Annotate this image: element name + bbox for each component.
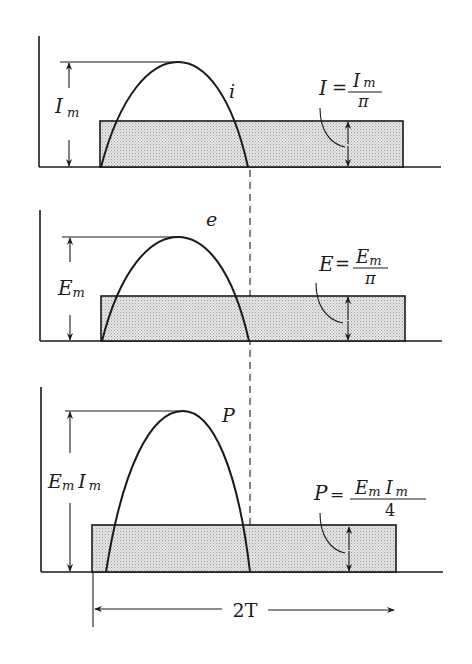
panel-voltage: Em e E = Em π <box>40 208 442 341</box>
curve-label: e <box>206 208 217 230</box>
formula-numerator: Em <box>355 246 381 268</box>
average-value-rect <box>101 296 405 341</box>
peak-label: Em <box>57 276 85 300</box>
formula-eq: = <box>335 253 350 274</box>
formula-numerator: EmIm <box>354 477 408 499</box>
curve-label: i <box>229 80 235 102</box>
formula-denominator: π <box>357 92 369 111</box>
formula-lhs: P <box>313 481 328 505</box>
period-dimension: 2T <box>93 572 394 627</box>
formula-lhs: I <box>318 76 328 100</box>
formula-eq: = <box>330 484 344 504</box>
formula-denominator: 4 <box>385 501 395 520</box>
panel-power: EmIm P P = EmIm 4 <box>41 387 443 572</box>
formula-denominator: π <box>364 269 376 288</box>
panel-current: Im i I = Im π <box>39 36 441 167</box>
formula-eq: = <box>332 77 347 98</box>
rectified-waveforms-diagram: Im i I = Im π Em e E = Em π <box>0 0 472 664</box>
peak-label: EmIm <box>47 470 101 493</box>
period-label: 2T <box>233 599 258 621</box>
formula-numerator: Im <box>352 70 375 91</box>
curve-label: P <box>221 404 236 426</box>
formula-lhs: E <box>318 252 334 276</box>
peak-label: Im <box>54 94 79 120</box>
average-value-rect <box>100 121 403 167</box>
